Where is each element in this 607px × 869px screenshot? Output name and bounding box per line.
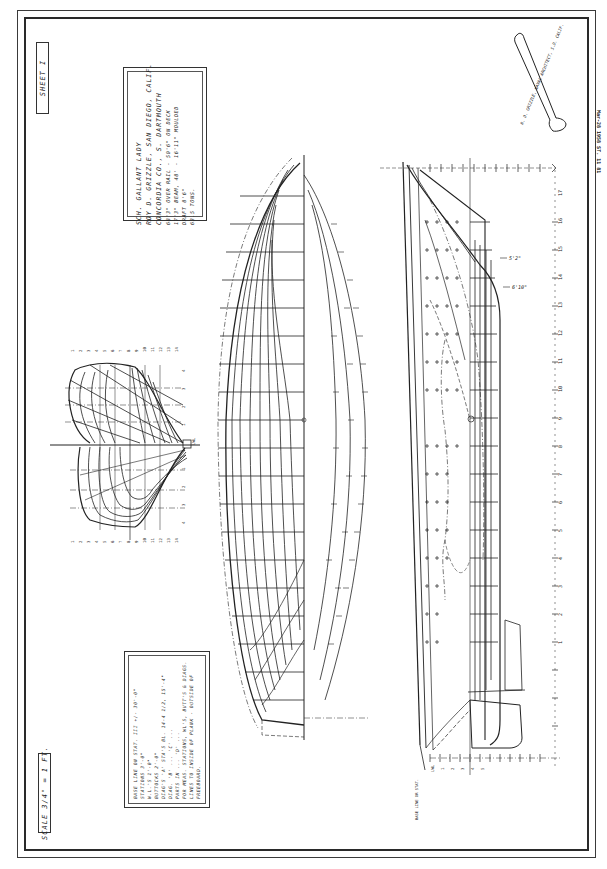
station-label: 14: [557, 274, 563, 280]
waterline-label: 1: [440, 767, 445, 770]
body-plan-label: 10: [142, 347, 147, 352]
body-plan-label: 8: [126, 349, 131, 352]
body-plan-label: 8: [126, 540, 131, 543]
station-label: 1: [557, 641, 563, 644]
body-plan-label: 13: [166, 538, 171, 543]
body-plan-label: 7: [118, 540, 123, 543]
dimension-label: 6'10": [512, 284, 527, 290]
body-plan-label: 4: [94, 349, 99, 352]
waterline-label: 3: [460, 767, 465, 770]
profile-plan: [380, 158, 560, 775]
body-plan-label: 3: [86, 349, 91, 352]
station-label: 7: [557, 473, 563, 476]
station-label: 5: [557, 529, 563, 532]
body-plan-side-label: 3: [181, 387, 186, 390]
half-breadth-plan: [218, 155, 370, 740]
body-plan-side-label: 3: [181, 503, 186, 506]
station-label: 11: [557, 358, 563, 364]
body-plan-top-labels: 1 2 3 4 5 6 7 8 9 10 11 12 13 14: [70, 347, 179, 352]
body-plan-label: 13: [166, 347, 171, 352]
scan-margin-text: Mar-28 1958 ST. 11 81: [596, 110, 602, 173]
architect-banner-text: R. D. GRIZZLE, NAVAL ARCHITECT, S.D. CAL…: [519, 23, 564, 125]
drawing-sheet: SHEET I SCALE 3/4" = 1 FT. SCH. GALLANT …: [0, 0, 607, 869]
lines-plan-drawing: R. D. GRIZZLE, NAVAL ARCHITECT, S.D. CAL…: [0, 0, 607, 869]
body-plan-label: 11: [150, 347, 155, 352]
body-plan-label: 3: [86, 540, 91, 543]
waterline-label: 5: [480, 767, 485, 770]
body-plan-side-label: 2: [181, 405, 186, 408]
body-plan-label: 4: [94, 540, 99, 543]
body-plan-label: 5: [102, 540, 107, 543]
station-label: 4: [557, 557, 563, 560]
body-plan-label: 12: [158, 538, 163, 543]
station-label: 8: [557, 445, 563, 448]
station-label: 17: [557, 190, 563, 196]
body-plan-label: 1: [70, 540, 75, 543]
body-plan-label: 1: [70, 349, 75, 352]
body-plan-bottom-labels: 1 2 3 4 5 6 7 8 9 10 11 12 13 14: [70, 538, 179, 543]
body-plan-label: 5: [102, 349, 107, 352]
body-plan-label: 2: [78, 349, 83, 352]
waterline-label: 2: [450, 767, 455, 770]
dimension-label: 5'2": [509, 255, 521, 261]
body-plan-label: 14: [174, 347, 179, 352]
body-plan-label: 6: [110, 540, 115, 543]
body-plan: [50, 363, 200, 540]
body-plan-label: 7: [118, 349, 123, 352]
station-label: 3: [557, 585, 563, 588]
station-label: 9: [557, 417, 563, 420]
base-line-label: BASE LINE OR STAT.: [414, 779, 419, 820]
station-label: 2: [557, 613, 563, 616]
body-plan-label: 9: [134, 540, 139, 543]
body-plan-label: 2: [78, 540, 83, 543]
station-label: 12: [557, 330, 563, 336]
body-plan-label: 14: [174, 538, 179, 543]
scan-margin-strip: Mar-28 1958 ST. 11 81: [598, 0, 607, 869]
body-plan-label: 12: [158, 347, 163, 352]
body-plan-side-label: 2: [181, 485, 186, 488]
station-label: 10: [557, 386, 563, 392]
station-label: 16: [557, 218, 563, 224]
body-plan-label: 10: [142, 538, 147, 543]
station-label: 6: [557, 501, 563, 504]
body-plan-side-label: LWL: [191, 437, 196, 445]
body-plan-side-label: 4: [181, 521, 186, 524]
waterline-label: 4: [470, 767, 475, 770]
body-plan-side-label: 4: [181, 369, 186, 372]
body-plan-side-label: 1: [181, 467, 186, 470]
body-plan-side-label: 1: [181, 423, 186, 426]
profile-grid-markers: [425, 220, 474, 644]
waterline-label: LWL: [430, 764, 435, 772]
body-plan-label: 11: [150, 538, 155, 543]
body-plan-label: 9: [134, 349, 139, 352]
station-label: 15: [557, 246, 563, 252]
station-label: 13: [557, 302, 563, 308]
body-plan-label: 6: [110, 349, 115, 352]
